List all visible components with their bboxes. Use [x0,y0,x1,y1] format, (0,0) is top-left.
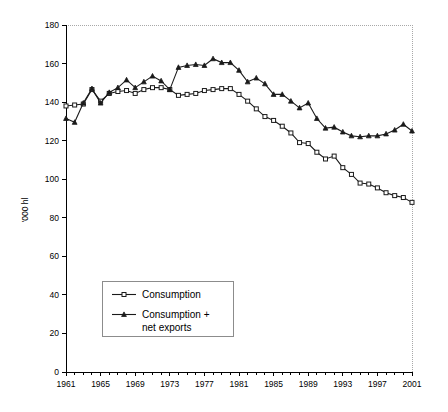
data-point [272,118,276,122]
data-point [159,86,163,90]
x-tick-label: 1993 [333,379,352,389]
data-point [254,107,258,111]
data-point [384,191,388,195]
data-point [263,81,268,86]
data-point [246,99,250,103]
series-consumption-plus-net-exports [64,56,415,139]
y-tick-label: 0 [54,367,59,377]
x-tick-label: 1989 [299,379,318,389]
data-point [263,115,267,119]
chart-legend[interactable]: ConsumptionConsumption +net exports [102,281,233,336]
data-point [298,141,302,145]
line-chart: 020406080100120140160180 196119651969197… [0,0,448,412]
y-axis-title: '000 hl [20,198,30,223]
data-point [340,129,345,134]
legend-label-line2: net exports [142,322,191,333]
data-point [185,92,189,96]
y-tick-label: 180 [45,20,59,30]
data-point [401,122,406,127]
y-tick-label: 20 [50,328,60,338]
data-point [142,88,146,92]
data-point [125,89,129,93]
data-point [410,200,414,204]
data-point [133,91,137,95]
x-axis-ticks: 1961196519691973197719811985198919931997… [57,372,422,389]
data-point [194,91,198,95]
y-tick-label: 120 [45,136,59,146]
data-point [280,124,284,128]
data-point [211,56,216,61]
y-tick-label: 100 [45,174,59,184]
y-axis-ticks: 020406080100120140160180 [45,20,66,377]
data-point [324,157,328,161]
data-point [341,166,345,170]
x-tick-label: 1965 [91,379,110,389]
y-tick-label: 60 [50,251,60,261]
data-point [202,89,206,93]
data-point [116,90,120,94]
data-point [150,73,155,78]
data-point [392,127,397,132]
y-axis-title-text: '000 hl [20,198,30,223]
data-point [73,103,77,107]
data-point [401,196,405,200]
x-tick-label: 1969 [126,379,145,389]
y-tick-label: 160 [45,59,59,69]
legend-label: Consumption [142,289,201,300]
data-point [64,104,68,108]
data-point [358,181,362,185]
data-point [315,150,319,154]
data-point [159,78,164,83]
legend-label: Consumption + [142,309,210,320]
data-point [64,116,69,121]
y-tick-label: 140 [45,97,59,107]
data-point [151,86,155,90]
data-point [124,77,129,82]
y-tick-label: 40 [50,290,60,300]
legend-marker-symbol [122,293,126,297]
data-point [176,93,180,97]
x-tick-label: 1961 [57,379,76,389]
data-series [64,56,415,204]
data-point [375,186,379,190]
data-point [220,87,224,91]
x-tick-label: 2001 [403,379,422,389]
x-tick-label: 1985 [264,379,283,389]
series-consumption [64,86,414,205]
data-point [349,172,353,176]
data-point [306,142,310,146]
data-point [254,75,259,80]
x-tick-label: 1977 [195,379,214,389]
data-point [306,100,311,105]
chart-page: 020406080100120140160180 196119651969197… [0,0,448,412]
data-point [211,88,215,92]
data-point [289,131,293,135]
data-point [141,79,146,84]
data-point [367,182,371,186]
x-tick-label: 1973 [160,379,179,389]
data-point [393,194,397,198]
data-point [237,92,241,96]
x-tick-label: 1981 [230,379,249,389]
data-point [228,87,232,91]
x-tick-label: 1997 [368,379,387,389]
y-tick-label: 80 [50,213,60,223]
data-point [332,154,336,158]
